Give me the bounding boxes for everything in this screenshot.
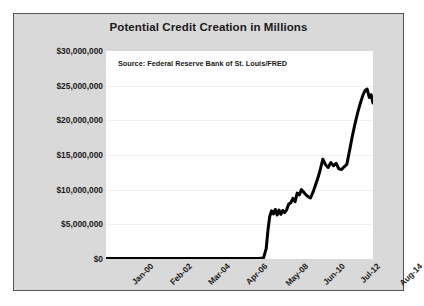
x-axis-tick-label: May-08 [283, 261, 310, 288]
x-axis-tick-label: Jul-12 [358, 261, 382, 285]
x-axis-tick-label: Jan-00 [130, 261, 156, 287]
x-axis-tick-label: Feb-02 [168, 261, 194, 287]
x-axis-tick-label: Aug-14 [397, 261, 424, 288]
x-axis-tick-labels: Jan-00Feb-02Mar-04Apr-06May-08Jun-10Jul-… [106, 259, 373, 304]
y-axis-tick-label: $20,000,000 [18, 115, 106, 125]
y-axis-tick-labels: $0$5,000,000$10,000,000$15,000,000$20,00… [14, 51, 106, 259]
x-axis-tick-label: Mar-04 [206, 261, 232, 287]
y-axis-tick-label: $30,000,000 [18, 46, 106, 56]
y-axis-tick-label: $0 [18, 254, 106, 264]
y-axis-tick-label: $10,000,000 [18, 185, 106, 195]
y-axis-tick-label: $5,000,000 [18, 219, 106, 229]
chart-frame: Potential Credit Creation in Millions $0… [13, 13, 404, 291]
data-series-line [106, 89, 373, 258]
plot-area: Source: Federal Reserve Bank of St. Loui… [106, 51, 373, 259]
x-axis-tick-label: Apr-06 [244, 261, 270, 287]
chart-title: Potential Credit Creation in Millions [14, 21, 403, 33]
x-axis-tick-label: Jun-10 [321, 261, 347, 287]
data-line-chart [106, 51, 373, 259]
y-axis-tick-label: $15,000,000 [18, 150, 106, 160]
y-axis-tick-label: $25,000,000 [18, 81, 106, 91]
